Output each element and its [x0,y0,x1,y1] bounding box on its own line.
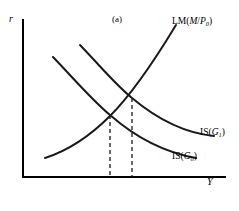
x-axis-label: Y [207,176,213,187]
lm-label-suffix: ) [209,16,212,26]
lm-curve-label: LM(M/P0) [172,17,212,27]
is-g1-curve-label: IS(G1) [200,128,225,138]
is-g0-label-variable: G [184,151,191,161]
chart-canvas [0,0,239,211]
is-g0-curve [53,57,196,158]
is-g0-curve-label: IS(G0) [172,152,197,162]
islm-figure: r Y (a) LM(M/P0) IS(G1) IS(G0) [0,0,239,211]
is-g0-label-suffix: ) [194,151,197,161]
is-g1-curve [80,45,214,136]
is-g1-label-prefix: IS( [200,127,212,137]
is-g0-label-prefix: IS( [172,151,184,161]
is-g1-label-variable: G [212,127,219,137]
panel-label: (a) [112,15,122,24]
x-axis-label-text: Y [207,176,213,187]
lm-label-prefix: LM( [172,16,189,26]
y-axis-label: r [9,14,13,24]
is-g1-label-suffix: ) [222,127,225,137]
